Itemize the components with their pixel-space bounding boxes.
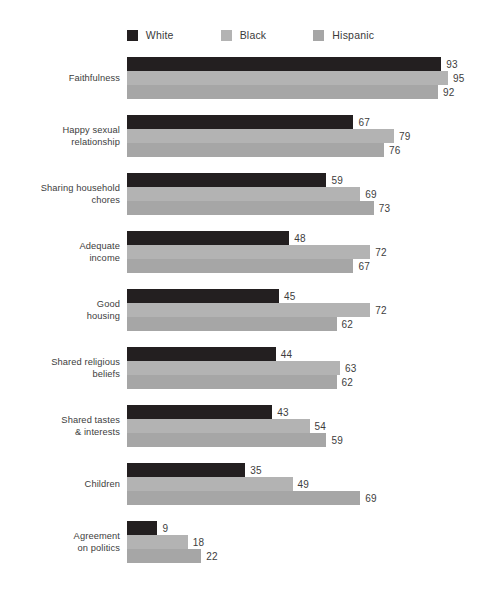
- bar-row-hispanic: 73: [127, 201, 390, 215]
- bar-row-hispanic: 62: [127, 317, 353, 331]
- bar-white[interactable]: [127, 463, 245, 477]
- bar-row-black: 49: [127, 477, 309, 491]
- legend-swatch-white: [127, 30, 138, 41]
- bar-white[interactable]: [127, 347, 276, 361]
- category-label-line: beliefs: [92, 368, 120, 381]
- legend-label-hispanic: Hispanic: [332, 29, 374, 41]
- bar-value-label: 54: [315, 421, 327, 432]
- category-label-line: Shared tastes: [61, 414, 120, 427]
- bar-hispanic[interactable]: [127, 317, 337, 331]
- category-label-line: income: [89, 252, 120, 265]
- bar-group-bars: 677976: [127, 115, 501, 157]
- bar-white[interactable]: [127, 231, 289, 245]
- legend-entry-white[interactable]: White: [127, 29, 174, 41]
- category-label-line: housing: [87, 310, 120, 323]
- bar-row-black: 63: [127, 361, 356, 375]
- bar-row-white: 59: [127, 173, 343, 187]
- bar-value-label: 79: [399, 131, 411, 142]
- bar-hispanic[interactable]: [127, 375, 337, 389]
- bar-value-label: 9: [162, 523, 168, 534]
- bar-group-bars: 487267: [127, 231, 501, 273]
- bar-row-black: 54: [127, 419, 326, 433]
- category-label: Agreementon politics: [0, 521, 120, 563]
- bar-white[interactable]: [127, 57, 441, 71]
- bar-black[interactable]: [127, 129, 394, 143]
- category-label: Faithfulness: [0, 57, 120, 99]
- bar-group-bars: 457262: [127, 289, 501, 331]
- bar-row-hispanic: 67: [127, 259, 370, 273]
- bar-black[interactable]: [127, 535, 188, 549]
- bar-black[interactable]: [127, 187, 360, 201]
- bar-group: Sharing householdchores596973: [0, 173, 501, 215]
- legend-entry-black[interactable]: Black: [221, 29, 267, 41]
- category-label-line: Sharing household: [41, 182, 120, 195]
- bar-hispanic[interactable]: [127, 433, 326, 447]
- bar-value-label: 69: [365, 493, 377, 504]
- bar-group: Adequateincome487267: [0, 231, 501, 273]
- category-label-line: chores: [91, 194, 120, 207]
- bar-group: Goodhousing457262: [0, 289, 501, 331]
- category-label: Adequateincome: [0, 231, 120, 273]
- bar-row-white: 35: [127, 463, 262, 477]
- bar-group: Shared religiousbeliefs446362: [0, 347, 501, 389]
- bar-value-label: 22: [206, 551, 218, 562]
- bar-row-hispanic: 59: [127, 433, 343, 447]
- bar-row-white: 45: [127, 289, 296, 303]
- bar-value-label: 63: [345, 363, 357, 374]
- category-label-line: & interests: [75, 426, 120, 439]
- bar-black[interactable]: [127, 245, 370, 259]
- bar-value-label: 76: [389, 145, 401, 156]
- bar-value-label: 59: [331, 435, 343, 446]
- bar-white[interactable]: [127, 173, 326, 187]
- legend-entry-hispanic[interactable]: Hispanic: [313, 29, 374, 41]
- bar-group-bars: 354969: [127, 463, 501, 505]
- category-label-line: Faithfulness: [69, 72, 120, 85]
- category-label-line: Shared religious: [51, 356, 120, 369]
- bar-white[interactable]: [127, 405, 272, 419]
- bar-group-bars: 91822: [127, 521, 501, 563]
- bar-hispanic[interactable]: [127, 85, 438, 99]
- bar-black[interactable]: [127, 477, 293, 491]
- category-label-line: Good: [97, 298, 120, 311]
- category-label: Goodhousing: [0, 289, 120, 331]
- legend-swatch-hispanic: [313, 30, 324, 41]
- bar-value-label: 72: [375, 247, 387, 258]
- bar-value-label: 73: [379, 203, 391, 214]
- bar-chart: WhiteBlackHispanic Faithfulness939592Hap…: [0, 0, 501, 610]
- bar-value-label: 44: [281, 349, 293, 360]
- bar-white[interactable]: [127, 521, 157, 535]
- bar-value-label: 69: [365, 189, 377, 200]
- bar-black[interactable]: [127, 71, 448, 85]
- bar-value-label: 48: [294, 233, 306, 244]
- category-label-line: Happy sexual: [62, 124, 120, 137]
- bar-hispanic[interactable]: [127, 549, 201, 563]
- legend-label-white: White: [146, 29, 174, 41]
- legend-swatch-black: [221, 30, 232, 41]
- bar-row-black: 18: [127, 535, 204, 549]
- bar-row-black: 79: [127, 129, 411, 143]
- bar-hispanic[interactable]: [127, 491, 360, 505]
- bar-row-white: 48: [127, 231, 306, 245]
- bar-value-label: 49: [298, 479, 310, 490]
- bar-row-white: 67: [127, 115, 370, 129]
- bar-value-label: 62: [342, 377, 354, 388]
- bar-value-label: 45: [284, 291, 296, 302]
- bar-hispanic[interactable]: [127, 143, 384, 157]
- bar-white[interactable]: [127, 115, 353, 129]
- bar-white[interactable]: [127, 289, 279, 303]
- bar-group-bars: 596973: [127, 173, 501, 215]
- category-label: Sharing householdchores: [0, 173, 120, 215]
- legend-label-black: Black: [240, 29, 267, 41]
- bar-black[interactable]: [127, 361, 340, 375]
- bar-black[interactable]: [127, 419, 310, 433]
- chart-plot-area: Faithfulness939592Happy sexualrelationsh…: [0, 57, 501, 563]
- bar-value-label: 67: [358, 261, 370, 272]
- bar-hispanic[interactable]: [127, 201, 374, 215]
- category-label-line: on politics: [78, 542, 120, 555]
- bar-row-black: 72: [127, 245, 387, 259]
- bar-value-label: 67: [358, 117, 370, 128]
- bar-row-white: 43: [127, 405, 289, 419]
- bar-value-label: 95: [453, 73, 465, 84]
- bar-hispanic[interactable]: [127, 259, 353, 273]
- bar-black[interactable]: [127, 303, 370, 317]
